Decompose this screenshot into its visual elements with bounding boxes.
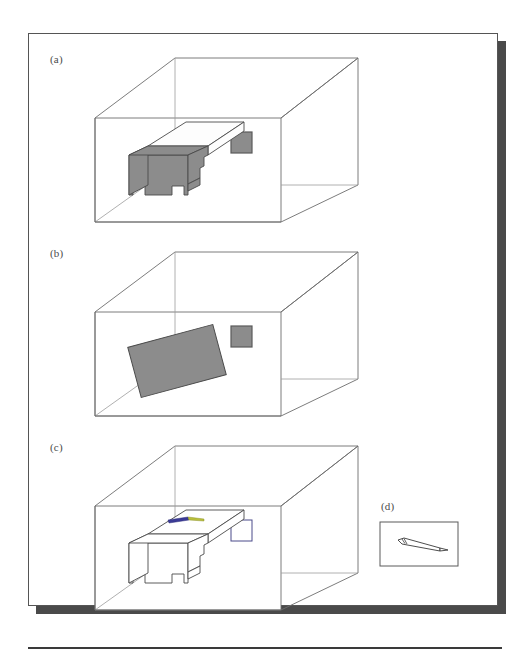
panel-label-d: (d) (381, 500, 394, 512)
room-ceiling-edges-a (95, 58, 358, 118)
room-ceiling-edges-b (95, 252, 358, 312)
room-right-wall-edges-a (281, 58, 358, 222)
panel-b-scene (28, 227, 498, 432)
panel-d-scene (378, 518, 488, 588)
room-right-wall-edges-c (281, 446, 358, 610)
wall-window-square-b (231, 326, 252, 347)
figure-page: (a) (b) (0, 0, 531, 653)
bottom-rule (28, 647, 502, 649)
room-right-wall-edges-b (281, 252, 358, 416)
room-ceiling-edges-c (95, 446, 358, 506)
panel-a-scene (28, 33, 498, 243)
